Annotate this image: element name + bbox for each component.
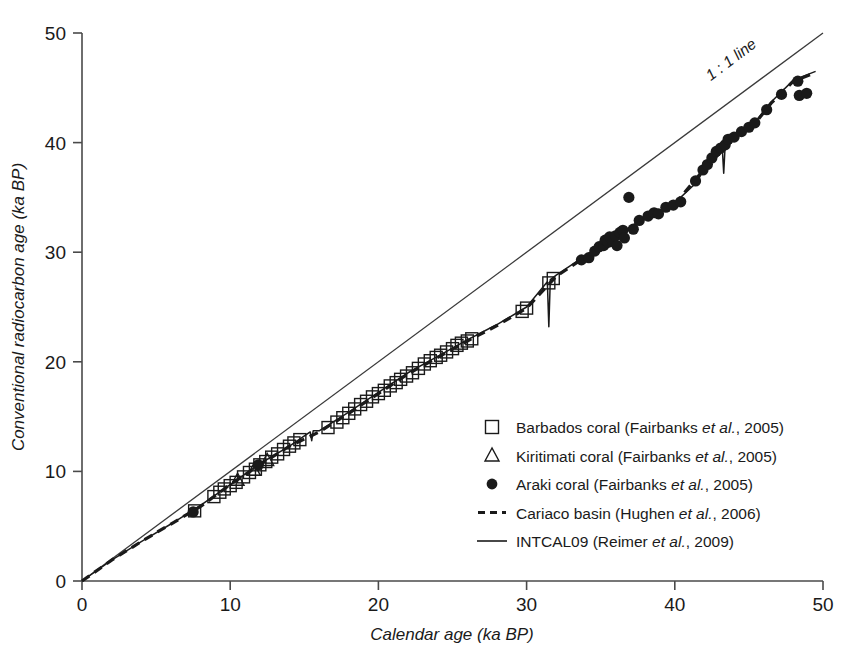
data-point-araki — [792, 76, 803, 87]
legend-open-triangle-icon — [485, 448, 499, 461]
data-point-araki — [690, 175, 701, 186]
data-point-araki — [253, 459, 264, 470]
legend-entry-open-triangle: Kiritimati coral (Fairbanks et al., 2005… — [485, 448, 777, 465]
y-tick-label-20: 20 — [45, 352, 66, 373]
x-tick-label-30: 30 — [516, 594, 537, 615]
legend-open-square-icon — [486, 421, 499, 434]
data-point-araki — [619, 232, 630, 243]
data-point-araki — [801, 88, 812, 99]
figure-canvas: 01020304050 01020304050 1 : 1 line Calen… — [0, 0, 849, 653]
x-tick-label-0: 0 — [77, 594, 88, 615]
x-axis-ticks: 01020304050 — [77, 581, 834, 615]
data-point-araki — [776, 89, 787, 100]
one-to-one-reference-line — [82, 33, 823, 581]
legend-entry-dashed-line: Cariaco basin (Hughen et al., 2006) — [478, 505, 761, 522]
x-tick-label-10: 10 — [220, 594, 241, 615]
legend-entry-open-square: Barbados coral (Fairbanks et al., 2005) — [486, 419, 784, 436]
x-axis-title: Calendar age (ka BP) — [370, 625, 533, 644]
x-tick-label-50: 50 — [812, 594, 833, 615]
legend-filled-circle-icon — [487, 479, 498, 490]
radiocarbon-calibration-scatter-chart: 01020304050 01020304050 1 : 1 line Calen… — [0, 0, 849, 653]
data-point-araki — [188, 506, 199, 517]
x-tick-label-40: 40 — [664, 594, 685, 615]
legend-entry-filled-circle: Araki coral (Fairbanks et al., 2005) — [487, 476, 753, 493]
legend-label: Kiritimati coral (Fairbanks et al., 2005… — [516, 448, 777, 465]
data-point-araki — [675, 196, 686, 207]
legend-label: INTCAL09 (Reimer et al., 2009) — [516, 533, 734, 550]
data-point-araki — [749, 117, 760, 128]
chart-legend: Barbados coral (Fairbanks et al., 2005)K… — [477, 419, 784, 550]
data-point-araki — [623, 192, 634, 203]
y-tick-label-10: 10 — [45, 461, 66, 482]
legend-label: Araki coral (Fairbanks et al., 2005) — [516, 476, 753, 493]
x-tick-label-20: 20 — [368, 594, 389, 615]
legend-label: Cariaco basin (Hughen et al., 2006) — [516, 505, 761, 522]
y-tick-label-40: 40 — [45, 133, 66, 154]
data-point-araki — [761, 104, 772, 115]
y-tick-label-50: 50 — [45, 23, 66, 44]
y-tick-label-0: 0 — [55, 571, 66, 592]
y-tick-label-30: 30 — [45, 242, 66, 263]
legend-entry-solid-line: INTCAL09 (Reimer et al., 2009) — [477, 533, 734, 550]
y-axis-ticks: 01020304050 — [45, 23, 82, 592]
one-to-one-line-label: 1 : 1 line — [702, 35, 759, 84]
legend-label: Barbados coral (Fairbanks et al., 2005) — [516, 419, 784, 436]
y-axis-title: Conventional radiocarbon age (ka BP) — [9, 163, 28, 451]
